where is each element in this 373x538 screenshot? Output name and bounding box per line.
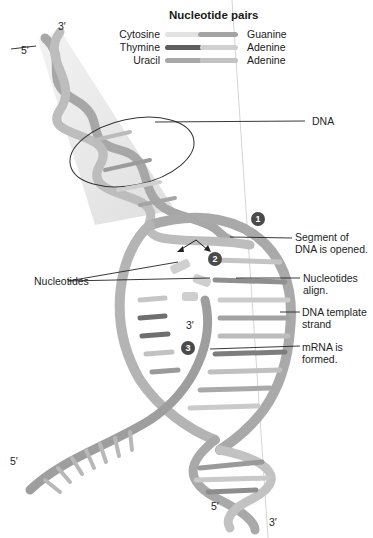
adenine-bar-1 (200, 45, 238, 50)
dna-transcription-illustration (0, 0, 373, 538)
template-line-2: strand (302, 318, 331, 330)
step-2-line-1: Nucleotides (303, 272, 358, 284)
step-2-line-2: align. (303, 284, 328, 296)
step-3-badge: 3 (181, 341, 195, 355)
step-2-badge: 2 (208, 252, 222, 266)
top-3-prime-label: 3′ (58, 20, 66, 32)
uracil-bar (165, 58, 202, 63)
left-5-prime-label: 5′ (10, 455, 18, 467)
legend-adenine-2: Adenine (247, 54, 286, 66)
dna-label: DNA (312, 115, 334, 127)
thymine-bar (165, 45, 202, 50)
step-3-line-2: formed. (302, 353, 338, 365)
top-5-prime-label: 5′ (21, 44, 29, 56)
cytosine-bar (165, 32, 200, 37)
bottom-3-prime-label: 3′ (269, 516, 277, 528)
nucleotides-label: Nucleotides (34, 275, 89, 287)
adenine-bar-2 (200, 58, 238, 63)
dna-leader (155, 121, 305, 122)
template-line-1: DNA template (302, 306, 367, 318)
step-1-line-2: DNA is opened. (295, 243, 368, 255)
bottom-5-prime-label: 5′ (211, 500, 219, 512)
guanine-bar (198, 32, 238, 37)
legend-thymine: Thymine (100, 41, 160, 53)
step-1-badge: 1 (251, 212, 265, 226)
legend-title: Nucleotide pairs (169, 9, 258, 21)
legend-adenine-1: Adenine (247, 41, 286, 53)
step-3-line-1: mRNA is (302, 341, 343, 353)
legend-uracil: Uracil (100, 54, 160, 66)
legend-cytosine: Cytosine (100, 28, 160, 40)
legend-guanine: Guanine (247, 28, 287, 40)
mrna-3-prime-label: 3′ (186, 319, 194, 331)
step-1-line-1: Segment of (295, 231, 349, 243)
